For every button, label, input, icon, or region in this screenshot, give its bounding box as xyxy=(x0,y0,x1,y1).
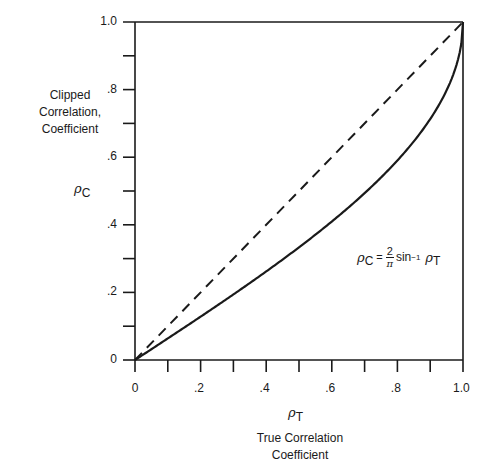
y-tick-label: .6 xyxy=(107,149,117,163)
x-axis-symbol: ρT xyxy=(288,404,303,422)
y-tick-label: 0 xyxy=(110,352,117,366)
x-tick-label: .8 xyxy=(391,381,401,395)
reference-dashed-line xyxy=(135,22,463,360)
x-label-line1: True Correlation xyxy=(240,430,360,447)
x-tick-label: 0 xyxy=(132,381,139,395)
y-tick-label: 1.0 xyxy=(100,14,117,28)
y-axis-label: Clipped Correlation, Coefficient xyxy=(22,87,118,138)
x-axis-label: True Correlation Coefficient xyxy=(240,430,360,464)
y-tick-label: .4 xyxy=(107,217,117,231)
chart-plot-area xyxy=(0,0,485,470)
x-tick-label: .4 xyxy=(260,381,270,395)
x-tick-label: .2 xyxy=(194,381,204,395)
y-label-line2: Correlation, xyxy=(22,104,118,121)
y-tick-label: .2 xyxy=(107,284,117,298)
formula-annotation: ρC = 2 π sin−1 ρT xyxy=(357,245,440,270)
x-tick-label: 1.0 xyxy=(453,381,470,395)
x-tick-label: .6 xyxy=(325,381,335,395)
y-label-line3: Coefficient xyxy=(22,121,118,138)
y-label-line1: Clipped xyxy=(22,87,118,104)
y-axis-symbol: ρC xyxy=(74,180,90,198)
x-label-line2: Coefficient xyxy=(240,447,360,464)
fraction: 2 π xyxy=(386,245,394,270)
